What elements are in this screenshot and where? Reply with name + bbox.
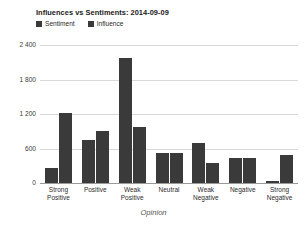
legend-swatch-icon <box>36 21 42 27</box>
y-axis-tick-label: 600 <box>25 145 36 152</box>
bar-group <box>151 45 188 183</box>
bar[interactable] <box>45 168 58 183</box>
x-axis-tick-label: Strong Positive <box>40 186 77 210</box>
y-axis-tick-label: 1 200 <box>19 111 36 118</box>
y-axis-tick-label: 0 <box>32 180 36 187</box>
y-axis-tick-label: 1 800 <box>19 76 36 83</box>
x-axis-line <box>40 183 298 184</box>
bar[interactable] <box>119 58 132 183</box>
y-axis: 06001 2001 8002 400 <box>0 45 36 183</box>
bar-group <box>261 45 298 183</box>
x-axis-category-labels: Strong PositivePositiveWeak PositiveNeut… <box>40 186 298 210</box>
legend-label-influence: Influence <box>97 21 124 28</box>
bar[interactable] <box>170 153 183 183</box>
bar[interactable] <box>192 143 205 183</box>
bar-group <box>40 45 77 183</box>
bar[interactable] <box>133 127 146 183</box>
bar[interactable] <box>82 140 95 183</box>
bar[interactable] <box>59 113 72 183</box>
bar[interactable] <box>96 131 109 183</box>
bar-group <box>77 45 114 183</box>
bar-chart: Influences vs Sentiments: 2014-09-09 Sen… <box>0 0 307 227</box>
x-axis-tick-label: Weak Negative <box>187 186 224 210</box>
legend-swatch-icon <box>88 21 94 27</box>
x-axis-title: Opinion <box>0 208 307 217</box>
bar[interactable] <box>243 158 256 183</box>
bar-groups <box>40 45 298 183</box>
bar-group <box>187 45 224 183</box>
plot-area <box>40 45 298 183</box>
x-axis-tick-label: Positive <box>77 186 114 210</box>
bar[interactable] <box>156 153 169 183</box>
bar-group <box>114 45 151 183</box>
x-axis-tick-label: Negative <box>224 186 261 210</box>
legend-entry-influence[interactable]: Influence <box>88 21 124 28</box>
y-axis-tick-label: 2 400 <box>19 42 36 49</box>
x-axis-tick-label: Strong Negative <box>261 186 298 210</box>
x-axis-tick-label: Weak Positive <box>114 186 151 210</box>
bar[interactable] <box>280 155 293 183</box>
bar[interactable] <box>206 163 219 183</box>
legend-label-sentiment: Sentiment <box>45 21 75 28</box>
chart-title: Influences vs Sentiments: 2014-09-09 <box>36 8 169 17</box>
bar-group <box>224 45 261 183</box>
x-axis-tick-label: Neutral <box>151 186 188 210</box>
bar[interactable] <box>229 158 242 183</box>
legend-entry-sentiment[interactable]: Sentiment <box>36 21 75 28</box>
chart-legend: Sentiment Influence <box>36 21 123 28</box>
